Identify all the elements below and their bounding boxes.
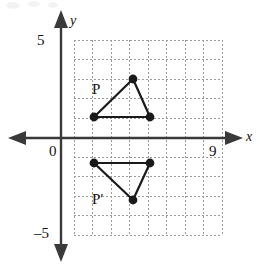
x-axis-arrow-right xyxy=(225,131,243,145)
y-axis-arrow-up xyxy=(54,10,68,28)
point-label-p-prime: P′ xyxy=(92,192,104,207)
point-label-p: P xyxy=(92,82,100,97)
vertex-marker xyxy=(146,113,155,122)
vertex-marker xyxy=(129,75,138,84)
y-axis-min-label: –5 xyxy=(34,226,49,241)
vertex-marker xyxy=(90,113,99,122)
vertex-marker xyxy=(146,159,155,168)
y-axis-arrow-down xyxy=(54,244,68,262)
origin-label: 0 xyxy=(49,144,57,159)
polygon-shapes xyxy=(94,79,150,200)
x-axis-label: x xyxy=(246,130,252,144)
vertex-marker xyxy=(90,159,99,168)
x-axis-max-label: 9 xyxy=(209,144,217,159)
vertex-marker xyxy=(129,196,138,205)
figure-canvas: 5 –5 0 9 x y P P′ xyxy=(0,0,265,269)
y-axis-max-label: 5 xyxy=(37,33,45,48)
x-axis-arrow-left xyxy=(8,131,26,145)
y-axis-label: y xyxy=(70,14,76,28)
